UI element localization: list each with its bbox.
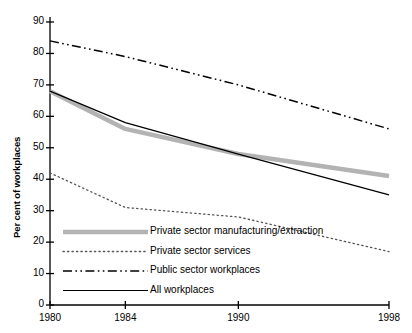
series-line-1	[50, 173, 389, 252]
series-line-0	[50, 91, 389, 176]
legend-label-2: Public sector workplaces	[150, 264, 260, 275]
chart-container: Per cent of workplaces 01020304050607080…	[0, 0, 412, 333]
legend-label-0: Private sector manufacturing/extraction	[150, 225, 323, 236]
legend-swatches	[63, 232, 148, 291]
series-line-3	[50, 91, 389, 195]
legend-label-1: Private sector services	[150, 245, 251, 256]
legend-label-3: All workplaces	[150, 284, 214, 295]
data-series-group	[50, 41, 389, 252]
